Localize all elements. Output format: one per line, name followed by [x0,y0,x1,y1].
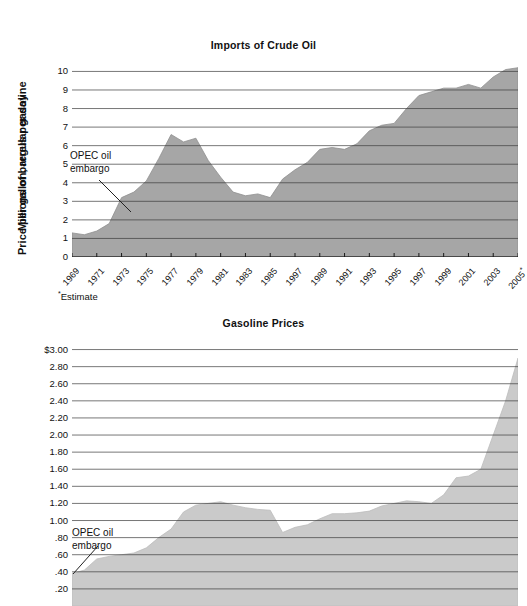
gasoline-plot-area [72,341,518,606]
imports-x-axis-ticks: 1969197119731975197719791981198319851997… [72,262,518,302]
y-axis-tick-label: .60 [55,550,68,560]
y-axis-tick-label: 5 [63,159,68,169]
y-axis-tick-label: 3 [63,196,68,206]
y-axis-tick-label: $3.00 [44,345,68,355]
y-axis-tick-label: 10 [57,66,68,76]
y-axis-tick-label: .80 [55,533,68,543]
gasoline-annotation-line1: OPEC oil [72,527,113,540]
y-axis-tick-label: .40 [55,567,68,577]
imports-annotation-line2: embargo [70,163,111,176]
y-axis-tick-label: 1.60 [50,464,69,474]
y-axis-tick-label: 2.40 [50,396,69,406]
y-axis-tick-label: 6 [63,141,68,151]
y-axis-tick-label: 1.20 [50,498,69,508]
gasoline-y-axis-ticks: .20.40.60.801.001.201.401.601.802.002.20… [26,341,68,606]
imports-plot-area [72,64,518,257]
imports-annotation-line1: OPEC oil [70,150,111,163]
y-axis-tick-label: 2 [63,215,68,225]
y-axis-tick-label: 1.40 [50,481,69,491]
imports-of-crude-oil-figure: Imports of Crude Oil Millions of barrels… [0,0,527,310]
imports-estimate-footnote: *Estimate [58,290,98,302]
imports-opec-embargo-annotation: OPEC oil embargo [70,150,111,175]
y-axis-tick-label: 2.80 [50,362,69,372]
gasoline-prices-figure: Gasoline Prices .20.40.60.801.001.201.40… [0,310,527,606]
y-axis-tick-label: 0 [63,252,68,262]
area-series [72,68,518,257]
y-axis-tick-label: 8 [63,104,68,114]
imports-chart-title: Imports of Crude Oil [0,39,527,51]
gasoline-opec-embargo-annotation: OPEC oil embargo [72,527,113,552]
gasoline-y-axis-title: Price per gallon, regular gasoline [16,81,28,255]
y-axis-tick-label: 1 [63,233,68,243]
footnote-text: Estimate [61,291,98,302]
y-axis-tick-label: 9 [63,85,68,95]
y-axis-tick-label: 7 [63,122,68,132]
y-axis-tick-label: 2.20 [50,413,69,423]
gasoline-annotation-line2: embargo [72,540,113,553]
gasoline-chart-title: Gasoline Prices [0,317,527,329]
y-axis-tick-label: 1.80 [50,447,69,457]
area-series [72,358,518,606]
y-axis-tick-label: 1.00 [50,516,69,526]
imports-y-axis-ticks: 012345678910 [36,64,68,257]
y-axis-tick-label: 2.60 [50,379,69,389]
y-axis-tick-label: 4 [63,178,68,188]
y-axis-tick-label: 2.00 [50,430,69,440]
y-axis-tick-label: .20 [55,584,68,594]
